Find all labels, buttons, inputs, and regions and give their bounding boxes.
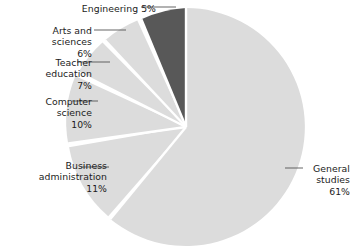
pie-label-computer-line2: science — [6, 107, 92, 118]
pie-label-teacher-line1: Teacher — [14, 57, 92, 68]
pie-label-computer-line1: Computer — [6, 96, 92, 107]
pie-label-engineering-line1: Engineering 5% — [66, 3, 156, 14]
pie-label-business-administration: Business administration 11% — [2, 160, 107, 194]
pie-label-general-line2: studies — [306, 174, 350, 185]
pie-label-general-line1: General — [306, 163, 350, 174]
pie-label-arts-and-sciences: Arts and sciences 6% — [24, 25, 92, 59]
pie-label-general-studies: General studies 61% — [306, 163, 350, 197]
pie-label-teacher-line2: education — [14, 68, 92, 79]
pie-label-engineering: Engineering 5% — [66, 3, 156, 14]
pie-label-teacher-value: 7% — [14, 80, 92, 91]
pie-label-computer-science: Computer science 10% — [6, 96, 92, 130]
pie-label-computer-value: 10% — [6, 119, 92, 130]
pie-label-business-value: 11% — [2, 183, 107, 194]
pie-label-teacher-education: Teacher education 7% — [14, 57, 92, 91]
pie-label-business-line2: administration — [2, 171, 107, 182]
pie-label-business-line1: Business — [2, 160, 107, 171]
pie-label-arts-line1: Arts and — [24, 25, 92, 36]
pie-label-arts-line2: sciences — [24, 36, 92, 47]
pie-chart: Engineering 5% Arts and sciences 6% Teac… — [0, 0, 351, 252]
pie-label-general-value: 61% — [306, 186, 350, 197]
